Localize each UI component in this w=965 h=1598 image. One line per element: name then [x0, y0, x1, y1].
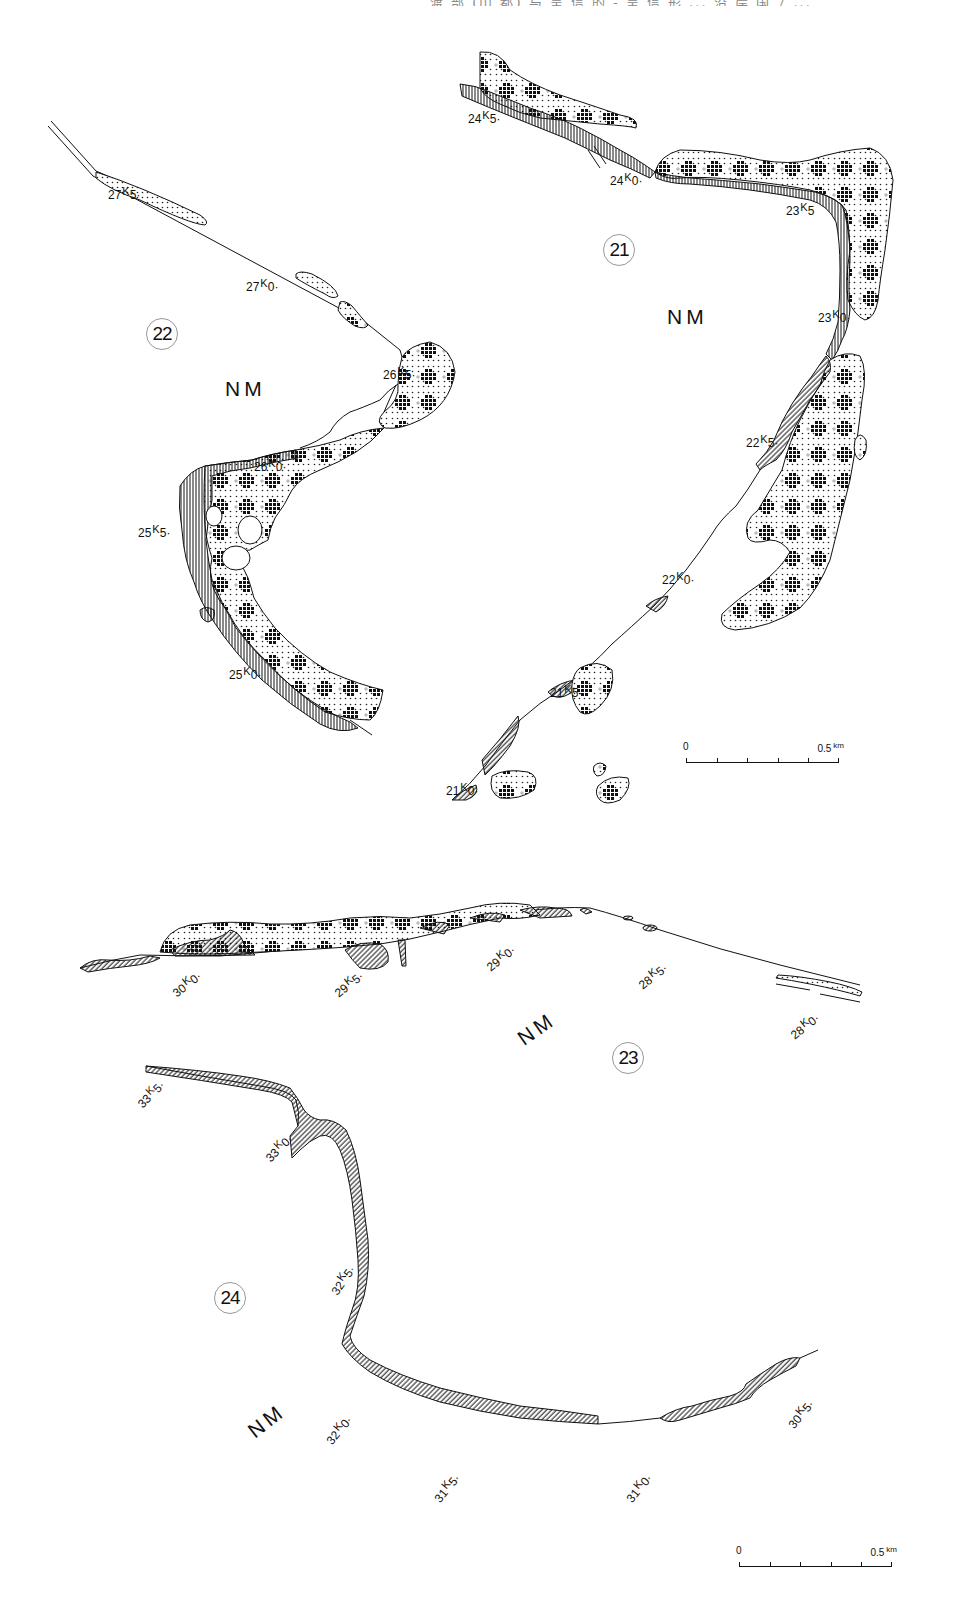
map-number-21: 21 — [603, 234, 635, 266]
km-label-21k5: 21K5· — [550, 684, 582, 699]
region-label-nm: NM — [667, 306, 708, 327]
map-drawing — [0, 0, 965, 1598]
map-number-24: 24 — [214, 1282, 246, 1314]
km-label-26k0: 26K0· — [254, 458, 286, 473]
map-number-22: 22 — [146, 318, 178, 350]
km-label-27k5: 27K5· — [108, 186, 140, 201]
km-label-24k5: 24K5· — [468, 110, 500, 125]
km-label-21k0: 21K0· — [446, 782, 478, 797]
km-label-25k0: 25K0· — [229, 666, 261, 681]
scale-bar-bottom: 0 0.5km — [739, 1545, 891, 1567]
km-label-23k5: 23K5 — [786, 202, 814, 217]
map-21 — [452, 52, 893, 803]
scale-bar-top: 0 0.5km — [686, 741, 838, 763]
km-label-22k0: 22K0· — [662, 571, 694, 586]
map-24 — [146, 1066, 818, 1424]
map-number-23: 23 — [612, 1042, 644, 1074]
map-22 — [48, 121, 455, 735]
km-label-22k5: 22K5· — [746, 434, 778, 449]
km-label-24k0: 24K0· — [610, 172, 642, 187]
km-label-25k5: 25K5· — [138, 524, 170, 539]
region-label-nm: NM — [225, 378, 266, 399]
km-label-26k5: 26K5· — [383, 366, 415, 381]
map-23 — [80, 903, 862, 1002]
km-label-27k0: 27K0· — [246, 278, 278, 293]
km-label-23k0: 23K0· — [818, 309, 850, 324]
